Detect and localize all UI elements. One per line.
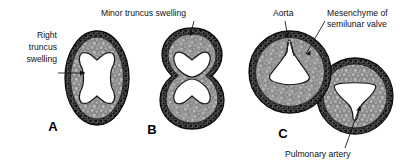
label-mesenchyme-of-semilunar-valve: Mesenchyme of semilunar valve <box>327 8 388 29</box>
panel-label-c: C <box>278 126 288 141</box>
label-line: Mesenchyme of <box>327 8 388 18</box>
panel-a-lumen <box>79 53 114 104</box>
label-line: truncus <box>29 42 57 52</box>
anatomical-figure: A B <box>0 0 416 164</box>
label-line: Aorta <box>273 8 294 18</box>
label-minor-truncus-swelling: Minor truncus swelling <box>101 8 186 18</box>
label-line: Pulmonary artery <box>285 149 351 159</box>
label-aorta: Aorta <box>273 8 294 18</box>
label-line: semilunar valve <box>327 19 387 29</box>
label-pulmonary-artery: Pulmonary artery <box>285 149 351 159</box>
label-line: Minor truncus swelling <box>101 8 186 18</box>
panel-label-a: A <box>48 119 58 134</box>
label-line: Right <box>37 30 58 40</box>
label-line: swelling <box>26 54 57 64</box>
figure-canvas: A B <box>0 0 416 164</box>
panel-label-b: B <box>147 122 156 137</box>
panel-c-aorta-vessel <box>249 31 331 113</box>
